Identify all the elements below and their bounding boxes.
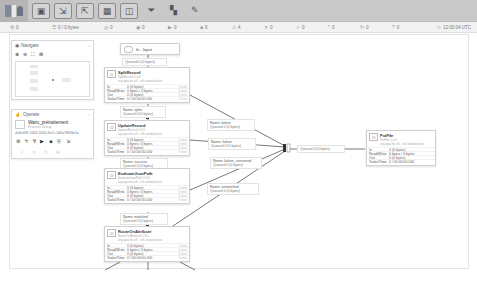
operate-panel: ☝Operate▫ Wazo_prétraitement Process Gro… xyxy=(11,109,94,159)
out-value: 0 (0 bytes) xyxy=(389,156,433,159)
processor-bundle: org.apache.nifi - nifi-standard-nar xyxy=(380,142,424,146)
queued-label: Queued 0 (0 bytes) xyxy=(123,112,163,116)
create-template-icon[interactable]: ⎘ xyxy=(57,138,61,145)
processor-route-on-attribute[interactable]: ⊡ RouteOnAttribute RouteOnAttribute 1.6.… xyxy=(104,226,190,262)
connection-splits[interactable]: Name: splits Queued 0 (0 bytes) xyxy=(120,106,166,118)
navigate-title: Navigate xyxy=(21,43,39,48)
delete-icon[interactable]: ⊟ xyxy=(56,149,60,155)
period: 5 min xyxy=(178,97,187,100)
tasks-label: Tasks/Time xyxy=(107,256,127,259)
connection-failure-2[interactable]: Name: failure Queued 0 (0 bytes) xyxy=(208,138,256,150)
connection-funnel-putfile[interactable]: Queued 0 (0 bytes) xyxy=(297,145,345,153)
period: 5 min xyxy=(178,252,187,255)
processor-icon: ⊡ xyxy=(107,70,116,78)
zoom-out-icon[interactable]: ⊖ xyxy=(23,51,27,58)
start-icon[interactable]: ▶ xyxy=(40,138,44,145)
tasks-value: 0 / 00:00:00.000 xyxy=(127,198,178,201)
actual-size-icon[interactable]: ⊞ xyxy=(39,51,43,58)
disable-icon[interactable]: ϟ̸ xyxy=(33,138,36,145)
period: 5 min xyxy=(178,150,187,153)
navigate-panel: ◉Navigate▫ ⊕ ⊖ ⛶ ⊞ xyxy=(11,40,94,100)
enable-icon[interactable]: ϟ xyxy=(25,138,28,145)
period: 5 min xyxy=(178,190,187,193)
processor-split-record[interactable]: ⊡ SplitRecord SplitRecord 1.6.0 org.apac… xyxy=(104,67,190,103)
connection-input[interactable]: Queued 0 (0 bytes) xyxy=(122,58,167,66)
tasks-value: 0 / 00:00:00.000 xyxy=(127,150,178,153)
rw-value: 0 bytes / 0 bytes xyxy=(127,89,178,92)
zoom-in-icon[interactable]: ⊕ xyxy=(15,51,19,58)
period: 5 min xyxy=(178,194,187,197)
processor-bundle: org.apache.nifi - nifi-standard-nar xyxy=(118,180,162,184)
revert-icon[interactable]: ✕ xyxy=(32,149,36,155)
tasks-value: 0 / 00:00:00.000 xyxy=(127,256,178,259)
processor-bundle: org.apache.nifi - nifi-standard-nar xyxy=(118,79,162,83)
queued-label: Queued 0 (0 bytes) xyxy=(211,144,253,148)
rw-value: 0 bytes / 0 bytes xyxy=(127,142,178,145)
fit-icon[interactable]: ⛶ xyxy=(31,51,35,58)
period: 5 min xyxy=(178,256,187,259)
selection-type: Process Group xyxy=(28,125,68,129)
tasks-value: 0 / 00:00:00.000 xyxy=(389,160,433,163)
input-port[interactable]: In - Input xyxy=(120,43,180,55)
refresh-icon[interactable]: ↻ xyxy=(44,149,48,155)
tasks-label: Tasks/Time xyxy=(107,198,127,201)
processor-icon: ⊡ xyxy=(369,133,378,141)
in-value: 0 (0 bytes) xyxy=(389,148,433,151)
stop-icon[interactable]: ■ xyxy=(49,138,52,145)
queued-label: Queued 0 (0 bytes) xyxy=(125,60,164,64)
processor-update-record[interactable]: ⊡ UpdateRecord UpdateRecord 1.6.0 org.ap… xyxy=(104,120,190,156)
tasks-value: 0 / 00:00:00.000 xyxy=(127,97,178,100)
configure-icon[interactable]: ⚙ xyxy=(16,138,20,145)
connection-matched[interactable]: Name: matched Queued 0 (0 bytes) xyxy=(120,213,168,225)
period: 5 min xyxy=(178,244,187,247)
in-label: In xyxy=(107,244,127,247)
queued-label: Queued 0 (0 bytes) xyxy=(210,125,252,129)
commit-icon[interactable]: ✓ xyxy=(20,149,24,155)
rw-label: Read/Write xyxy=(107,248,127,251)
connection-failure-converted[interactable]: Name: failure_converted Queued 0 (0 byte… xyxy=(210,157,262,169)
processor-bundle: org.apache.nifi - nifi-standard-nar xyxy=(118,132,162,136)
collapse-icon[interactable]: ▫ xyxy=(89,43,90,48)
in-value: 0 (0 bytes) xyxy=(127,186,178,189)
processor-evaluate-json-path[interactable]: ⊡ EvaluateJsonPath EvaluateJsonPath 1.6.… xyxy=(104,168,190,204)
out-value: 0 (0 bytes) xyxy=(127,146,178,149)
rw-label: Read/Write xyxy=(107,142,127,145)
out-label: Out xyxy=(369,156,389,159)
birdseye-minimap[interactable] xyxy=(15,61,90,97)
tasks-label: Tasks/Time xyxy=(107,97,127,100)
port-label: In - Input xyxy=(136,47,152,52)
in-label: In xyxy=(107,138,127,141)
period: 5 min xyxy=(178,142,187,145)
rw-value: 0 bytes / 0 bytes xyxy=(389,152,433,155)
process-group-icon xyxy=(15,120,25,129)
out-label: Out xyxy=(107,194,127,197)
queued-label: Queued 0 (0 bytes) xyxy=(213,163,259,167)
out-value: 0 (0 bytes) xyxy=(127,252,178,255)
tasks-label: Tasks/Time xyxy=(369,160,389,163)
out-value: 0 (0 bytes) xyxy=(127,93,178,96)
out-label: Out xyxy=(107,93,127,96)
period: 5 min xyxy=(178,138,187,141)
processor-put-file[interactable]: ⊡ PutFile PutFile 1.6.0 org.apache.nifi … xyxy=(366,130,436,166)
period: 5 min xyxy=(178,85,187,88)
connection-unmatched[interactable]: Name: unmatched Queued 0 (0 bytes) xyxy=(207,183,259,195)
processor-icon: ⊡ xyxy=(107,123,116,131)
out-value: 0 (0 bytes) xyxy=(127,194,178,197)
period: 5 min xyxy=(178,186,187,189)
period: 5 min xyxy=(178,89,187,92)
rw-value: 0 bytes / 0 bytes xyxy=(127,248,178,251)
processor-bundle: org.apache.nifi - nifi-standard-nar xyxy=(118,238,162,242)
port-icon xyxy=(124,46,133,53)
rw-label: Read/Write xyxy=(369,152,389,155)
processor-icon: ⊡ xyxy=(107,171,116,179)
in-label: In xyxy=(369,148,389,151)
out-label: Out xyxy=(107,252,127,255)
in-value: 0 (0 bytes) xyxy=(127,85,178,88)
period: 5 min xyxy=(178,198,187,201)
collapse-icon[interactable]: ▫ xyxy=(89,112,90,117)
connection-failure-1[interactable]: Name: failure Queued 0 (0 bytes) xyxy=(207,119,255,131)
rw-value: 0 bytes / 0 bytes xyxy=(127,190,178,193)
in-label: In xyxy=(107,186,127,189)
upload-template-icon[interactable]: ⇲ xyxy=(66,138,70,145)
period: 5 min xyxy=(178,248,187,251)
